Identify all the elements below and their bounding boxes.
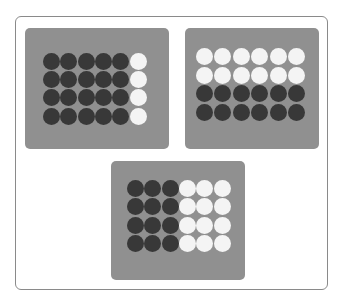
light-counter (196, 217, 213, 234)
dark-counter (112, 71, 129, 88)
dark-counter (162, 198, 179, 215)
light-counter (196, 198, 213, 215)
light-counter (251, 48, 268, 65)
dark-counter (144, 198, 161, 215)
figure (0, 0, 345, 308)
light-counter (214, 198, 231, 215)
dark-counter (270, 104, 287, 121)
light-counter (214, 235, 231, 252)
dark-counter (95, 71, 112, 88)
dark-counter (60, 71, 77, 88)
dark-counter (162, 180, 179, 197)
dark-counter (78, 89, 95, 106)
dark-counter (214, 85, 231, 102)
light-counter (288, 67, 305, 84)
dark-counter (43, 89, 60, 106)
light-counter (196, 67, 213, 84)
dark-counter (251, 85, 268, 102)
light-counter (196, 48, 213, 65)
dark-counter (270, 85, 287, 102)
dark-counter (112, 89, 129, 106)
dark-counter (127, 198, 144, 215)
light-counter (214, 180, 231, 197)
dark-counter (78, 53, 95, 70)
light-counter (288, 48, 305, 65)
dark-counter (112, 108, 129, 125)
light-counter (179, 217, 196, 234)
dark-counter (144, 235, 161, 252)
dark-counter (251, 104, 268, 121)
light-counter (233, 48, 250, 65)
light-counter (196, 235, 213, 252)
dark-counter (196, 85, 213, 102)
counter-array-panel-3 (111, 161, 245, 280)
counter-array-panel-2 (185, 28, 319, 149)
dark-counter (43, 53, 60, 70)
dark-counter (43, 71, 60, 88)
dark-counter (78, 71, 95, 88)
dark-counter (288, 85, 305, 102)
dark-counter (95, 53, 112, 70)
light-counter (130, 53, 147, 70)
dark-counter (78, 108, 95, 125)
dark-counter (95, 108, 112, 125)
light-counter (130, 89, 147, 106)
dark-counter (43, 108, 60, 125)
dark-counter (144, 217, 161, 234)
dark-counter (60, 53, 77, 70)
dark-counter (127, 217, 144, 234)
light-counter (179, 180, 196, 197)
light-counter (179, 198, 196, 215)
light-counter (270, 48, 287, 65)
dark-counter (144, 180, 161, 197)
dark-counter (60, 108, 77, 125)
light-counter (270, 67, 287, 84)
light-counter (130, 108, 147, 125)
dark-counter (127, 235, 144, 252)
light-counter (130, 71, 147, 88)
light-counter (251, 67, 268, 84)
light-counter (214, 48, 231, 65)
light-counter (179, 235, 196, 252)
light-counter (196, 180, 213, 197)
dark-counter (233, 85, 250, 102)
dark-counter (60, 89, 77, 106)
light-counter (233, 67, 250, 84)
counter-array-panel-1 (25, 28, 169, 149)
dark-counter (112, 53, 129, 70)
dark-counter (162, 235, 179, 252)
dark-counter (233, 104, 250, 121)
dark-counter (196, 104, 213, 121)
dark-counter (162, 217, 179, 234)
light-counter (214, 67, 231, 84)
dark-counter (95, 89, 112, 106)
dark-counter (214, 104, 231, 121)
dark-counter (288, 104, 305, 121)
dark-counter (127, 180, 144, 197)
light-counter (214, 217, 231, 234)
